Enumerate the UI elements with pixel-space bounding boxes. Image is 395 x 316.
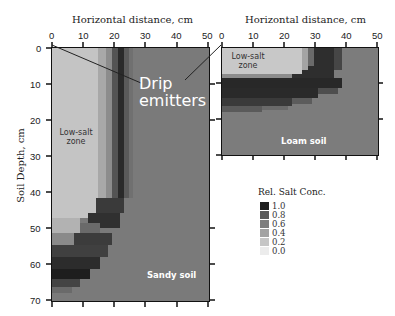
legend-title: Rel. Salt Conc. (258, 187, 326, 197)
legend: Rel. Salt Conc. 1.0 0.8 0.6 0.4 0.2 0.0 (258, 187, 326, 255)
legend-item-0-2: 0.2 (260, 237, 326, 246)
legend-item-0-4: 0.4 (260, 228, 326, 237)
drip-emitters-label-line1: Drip (139, 75, 173, 92)
drip-emitters-label-line2: emitters (139, 92, 206, 109)
left-low-salt-label: Low-salt zone (56, 128, 96, 146)
legend-item-0-0: 0.0 (260, 246, 326, 255)
legend-item-0-8: 0.8 (260, 210, 326, 219)
legend-swatch (260, 238, 269, 246)
legend-item-0-6: 0.6 (260, 219, 326, 228)
legend-item-1-0: 1.0 (260, 201, 326, 210)
drip-emitter-pointer-lines (0, 0, 395, 316)
legend-swatch (260, 220, 269, 228)
legend-swatch (260, 202, 269, 210)
loam-soil-label: Loam soil (281, 136, 327, 146)
legend-swatch (260, 229, 269, 237)
right-low-salt-label: Low-salt zone (226, 52, 270, 70)
sandy-soil-label: Sandy soil (147, 270, 196, 280)
legend-swatch (260, 247, 269, 255)
legend-swatch (260, 211, 269, 219)
